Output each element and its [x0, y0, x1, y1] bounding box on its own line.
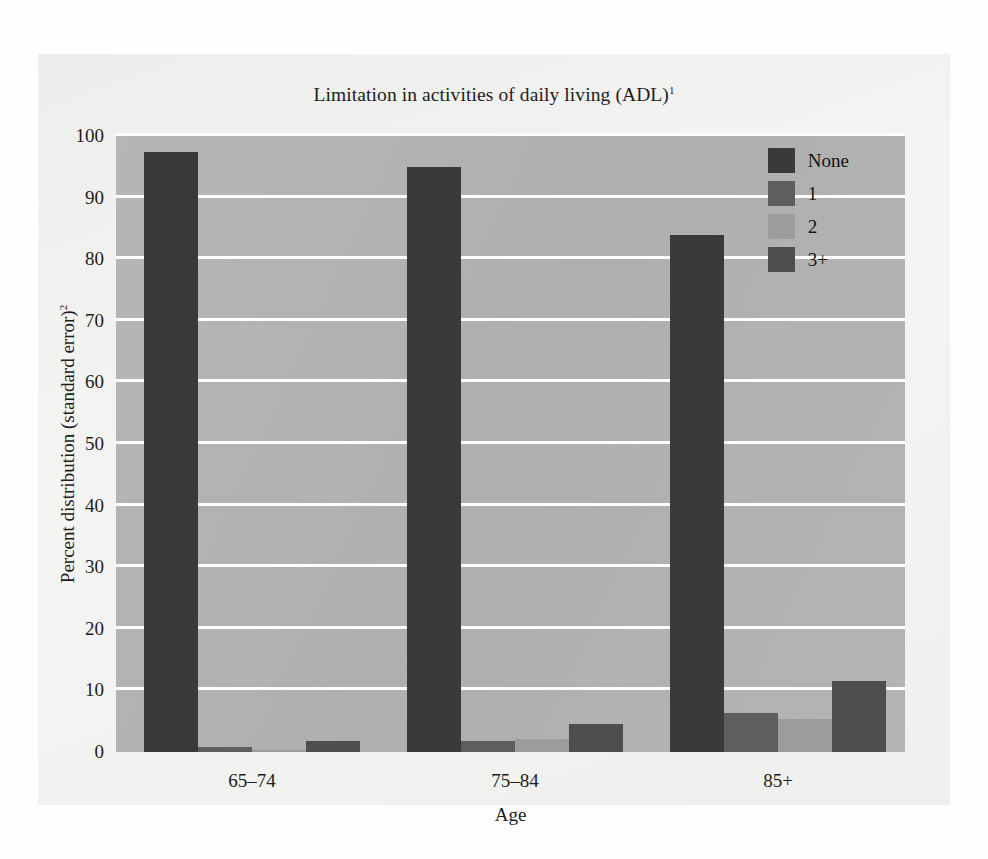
- bar: [144, 152, 198, 752]
- y-axis-label-text: Percent distribution (standard error): [57, 310, 78, 583]
- y-axis-tick-label: 100: [76, 125, 105, 147]
- figure-card: Limitation in activities of daily living…: [38, 54, 950, 805]
- bar: [306, 741, 360, 752]
- x-axis-label: Age: [116, 804, 905, 826]
- y-axis-label: Percent distribution (standard error)2: [57, 305, 79, 583]
- bar: [198, 747, 252, 752]
- chart-legend: None123+: [768, 148, 849, 272]
- y-axis-tick-label: 60: [85, 371, 104, 393]
- y-axis-tick-label: 30: [85, 556, 104, 578]
- legend-item: 3+: [768, 247, 849, 272]
- bar: [515, 739, 569, 752]
- legend-swatch: [768, 214, 795, 239]
- bar: [670, 235, 724, 752]
- legend-label: None: [808, 150, 849, 172]
- y-axis-label-footnote-marker: 2: [57, 305, 69, 311]
- legend-item: None: [768, 148, 849, 173]
- legend-item: 1: [768, 181, 849, 206]
- legend-swatch: [768, 247, 795, 272]
- legend-swatch: [768, 148, 795, 173]
- legend-label: 2: [808, 216, 818, 238]
- plot-area: Percent distribution (standard error)2 0…: [116, 136, 905, 752]
- bar-group: [144, 136, 360, 752]
- y-axis-tick-label: 90: [85, 187, 104, 209]
- figure-page: Limitation in activities of daily living…: [0, 0, 988, 859]
- y-axis-tick-label: 0: [95, 741, 105, 763]
- chart-title-footnote-marker: 1: [669, 84, 675, 96]
- legend-label: 1: [808, 183, 818, 205]
- bar: [407, 167, 461, 752]
- legend-label: 3+: [808, 249, 828, 271]
- legend-swatch: [768, 181, 795, 206]
- x-axis-tick-label: 65–74: [228, 770, 276, 792]
- y-axis-tick-label: 20: [85, 618, 104, 640]
- chart-title-text: Limitation in activities of daily living…: [313, 84, 669, 105]
- y-axis-tick-label: 10: [85, 679, 104, 701]
- chart-title: Limitation in activities of daily living…: [38, 84, 950, 106]
- bar: [569, 724, 623, 752]
- bar-group: [407, 136, 623, 752]
- bar: [724, 713, 778, 752]
- legend-item: 2: [768, 214, 849, 239]
- x-axis-tick-label: 85+: [763, 770, 793, 792]
- y-axis-tick-label: 80: [85, 248, 104, 270]
- bar: [778, 719, 832, 752]
- y-axis-tick-label: 70: [85, 310, 104, 332]
- bar: [832, 681, 886, 752]
- y-axis-tick-label: 40: [85, 495, 104, 517]
- bar: [461, 741, 515, 752]
- y-axis-tick-label: 50: [85, 433, 104, 455]
- bar: [252, 750, 306, 752]
- x-axis-tick-label: 75–84: [491, 770, 539, 792]
